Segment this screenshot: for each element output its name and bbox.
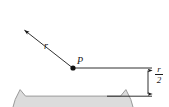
r-over-2-label: r 2	[155, 64, 163, 86]
fraction-numerator: r	[155, 64, 163, 74]
point-p-label: P	[77, 56, 83, 66]
radius-label: r	[44, 41, 48, 51]
fraction-denominator: 2	[155, 75, 163, 85]
radius-leader-line	[25, 30, 73, 67]
shaded-disk-segment	[11, 90, 135, 107]
point-p-marker	[70, 65, 75, 70]
geometry-diagram-svg	[0, 0, 169, 107]
figure-container: r P r 2	[0, 0, 169, 107]
